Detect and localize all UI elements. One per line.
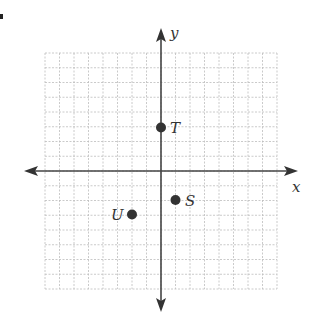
point-S: S <box>171 192 196 210</box>
axes: y x <box>24 24 301 312</box>
point-label-S: S <box>185 192 195 210</box>
x-axis-label: x <box>292 178 301 196</box>
coordinate-plane: y x T S U <box>0 0 316 335</box>
point-T: T <box>156 119 181 137</box>
y-axis-label: y <box>169 24 179 42</box>
point-label-U: U <box>111 206 125 224</box>
point-label-T: T <box>170 119 181 137</box>
